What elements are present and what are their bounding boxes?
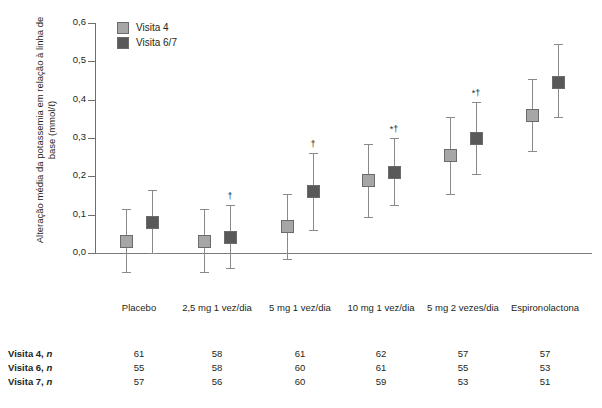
table-cell: 57 bbox=[515, 348, 575, 359]
table-cell: 56 bbox=[187, 376, 247, 387]
data-point-marker bbox=[281, 220, 294, 233]
significance-marker: *† bbox=[464, 88, 488, 98]
y-tick-mark bbox=[88, 100, 95, 101]
error-bar-cap-lower bbox=[390, 205, 399, 206]
table-cell: 57 bbox=[109, 376, 169, 387]
error-bar-cap-lower bbox=[554, 117, 563, 118]
data-point-marker bbox=[552, 76, 565, 89]
y-tick-label: 0,3 bbox=[54, 132, 86, 142]
category-label: 2,5 mg 1 vez/dia bbox=[171, 302, 263, 313]
counts-table: Placebo2,5 mg 1 vez/dia5 mg 1 vez/dia10 … bbox=[0, 296, 602, 408]
zero-baseline bbox=[95, 253, 592, 254]
data-point-marker bbox=[224, 231, 237, 244]
significance-marker: † bbox=[301, 139, 325, 149]
table-cell: 59 bbox=[351, 376, 411, 387]
error-bar-cap-upper bbox=[283, 194, 292, 195]
category-label: 5 mg 1 vez/dia bbox=[258, 302, 342, 313]
error-bar-cap-lower bbox=[200, 272, 209, 273]
table-cell: 55 bbox=[433, 362, 493, 373]
table-cell: 58 bbox=[187, 348, 247, 359]
error-bar-cap-upper bbox=[472, 102, 481, 103]
y-tick-label: 0,0 bbox=[54, 247, 86, 257]
data-point-marker bbox=[444, 149, 457, 162]
plot-area: ††*†*† bbox=[95, 23, 592, 253]
error-bar-cap-upper bbox=[364, 144, 373, 145]
data-point-marker bbox=[198, 235, 211, 248]
error-bar-cap-upper bbox=[122, 209, 131, 210]
error-bar-cap-lower bbox=[309, 230, 318, 231]
error-bar-cap-lower bbox=[446, 194, 455, 195]
table-cell: 58 bbox=[187, 362, 247, 373]
table-cell: 60 bbox=[270, 376, 330, 387]
error-bar-cap-upper bbox=[226, 205, 235, 206]
error-bar-cap-upper bbox=[554, 44, 563, 45]
error-bar-cap-upper bbox=[446, 117, 455, 118]
error-bar-cap-lower bbox=[283, 259, 292, 260]
y-tick-mark bbox=[88, 61, 95, 62]
table-cell: 62 bbox=[351, 348, 411, 359]
category-label: Placebo bbox=[103, 302, 175, 313]
y-tick-label: 0,4 bbox=[54, 94, 86, 104]
y-tick-mark bbox=[88, 23, 95, 24]
table-cell: 57 bbox=[433, 348, 493, 359]
y-tick-mark bbox=[88, 253, 95, 254]
error-bar-cap-upper bbox=[148, 190, 157, 191]
y-tick-mark bbox=[88, 176, 95, 177]
error-bar-cap-lower bbox=[148, 253, 157, 254]
error-bar-cap-lower bbox=[528, 151, 537, 152]
y-tick-label: 0,1 bbox=[54, 209, 86, 219]
table-cell: 51 bbox=[515, 376, 575, 387]
error-bar-cap-lower bbox=[122, 272, 131, 273]
data-point-marker bbox=[526, 109, 539, 122]
data-point-marker bbox=[388, 166, 401, 179]
error-bar-cap-upper bbox=[309, 153, 318, 154]
error-bar-cap-upper bbox=[390, 138, 399, 139]
significance-marker: † bbox=[218, 191, 242, 201]
table-cell: 61 bbox=[270, 348, 330, 359]
y-tick-mark bbox=[88, 215, 95, 216]
data-point-marker bbox=[470, 132, 483, 145]
y-tick-label: 0,5 bbox=[54, 55, 86, 65]
error-bar-cap-lower bbox=[472, 174, 481, 175]
error-bar-cap-lower bbox=[226, 268, 235, 269]
table-cell: 60 bbox=[270, 362, 330, 373]
table-row-label: Visita 6, n bbox=[8, 362, 52, 373]
y-tick-label: 0,6 bbox=[54, 17, 86, 27]
data-point-marker bbox=[120, 235, 133, 248]
table-row-label: Visita 4, n bbox=[8, 348, 52, 359]
table-cell: 55 bbox=[109, 362, 169, 373]
category-label: Espironolactona bbox=[499, 302, 591, 313]
data-point-marker bbox=[307, 185, 320, 198]
data-point-marker bbox=[362, 174, 375, 187]
chart-figure: Alteração média da potassemia em relação… bbox=[0, 0, 602, 408]
y-tick-mark bbox=[88, 138, 95, 139]
table-cell: 61 bbox=[351, 362, 411, 373]
table-row-label: Visita 7, n bbox=[8, 376, 52, 387]
table-cell: 61 bbox=[109, 348, 169, 359]
significance-marker: *† bbox=[382, 124, 406, 134]
y-tick-label: 0,2 bbox=[54, 170, 86, 180]
error-bar-cap-lower bbox=[364, 217, 373, 218]
error-bar-cap-upper bbox=[200, 209, 209, 210]
error-bar-cap-upper bbox=[528, 79, 537, 80]
table-cell: 53 bbox=[515, 362, 575, 373]
table-cell: 53 bbox=[433, 376, 493, 387]
data-point-marker bbox=[146, 216, 159, 229]
